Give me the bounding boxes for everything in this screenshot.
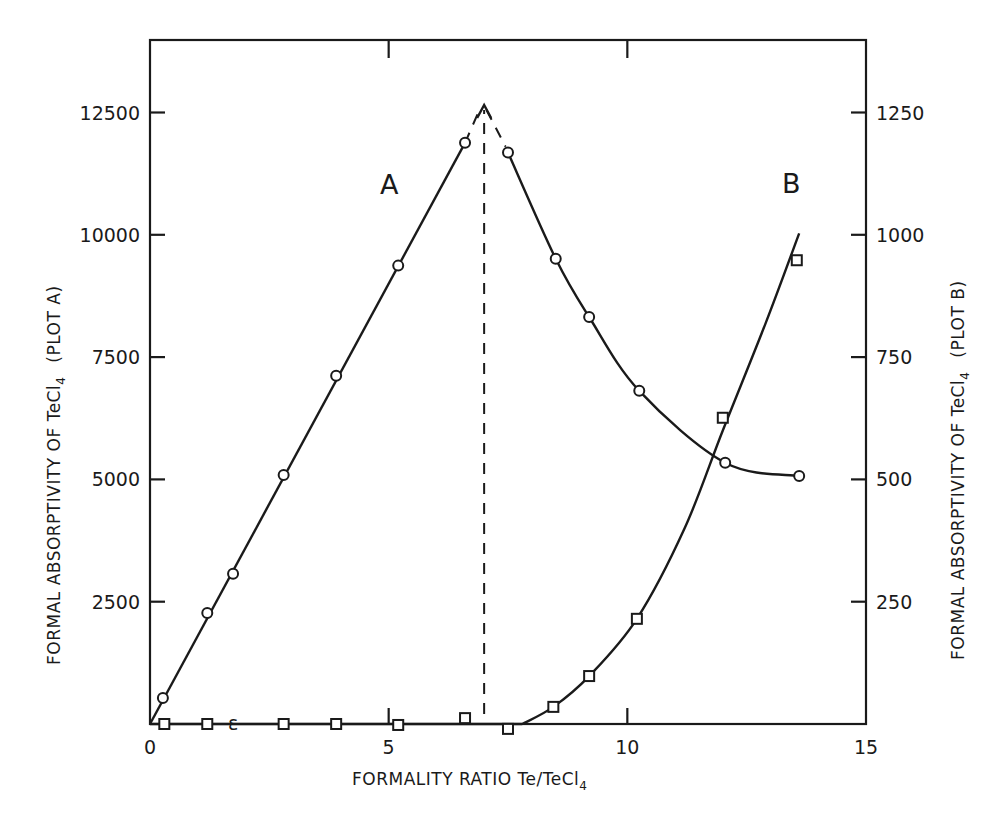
y-tick-label-right: 250 — [876, 591, 912, 613]
marker-a-circle — [228, 569, 238, 579]
marker-b-square — [279, 719, 289, 729]
marker-a-circle — [584, 312, 594, 322]
marker-a-circle — [503, 148, 513, 158]
marker-a-circle — [551, 254, 561, 264]
x-tick-label: 10 — [615, 736, 639, 758]
marker-a-circle — [460, 138, 470, 148]
y-axis-title-right: FORMAL ABSORPTIVITY OF TeCl4(PLOT B) — [948, 280, 972, 660]
x-tick-label: 0 — [144, 736, 156, 758]
marker-b-square — [393, 720, 403, 730]
x-axis-title: FORMALITY RATIO Te/TeCl4 — [352, 769, 587, 793]
marker-b-square — [584, 671, 594, 681]
y-tick-label-right: 500 — [876, 468, 912, 490]
axis-ticks — [150, 40, 866, 724]
y-tick-label-right: 750 — [876, 346, 912, 368]
y-tick-label-left: 12500 — [80, 102, 140, 124]
x-tick-label: 5 — [383, 736, 395, 758]
curve-a-rising — [150, 143, 465, 724]
marker-a-circle — [393, 261, 403, 271]
curve-b — [522, 233, 799, 724]
baseline-glyph: ε — [228, 712, 238, 734]
marker-b-square — [331, 719, 341, 729]
y-tick-label-left: 2500 — [92, 591, 140, 613]
curve-a-falling — [508, 153, 799, 476]
marker-b-square — [718, 413, 728, 423]
marker-a-circle — [634, 386, 644, 396]
y-tick-label-right: 1000 — [876, 224, 924, 246]
marker-a-circle — [158, 693, 168, 703]
y-tick-label-right: 1250 — [876, 102, 924, 124]
y-tick-label-left: 10000 — [80, 224, 140, 246]
y-tick-label-left: 7500 — [92, 346, 140, 368]
marker-a-circle — [331, 371, 341, 381]
marker-b-square — [792, 255, 802, 265]
curve-label-b: B — [782, 168, 801, 199]
marker-a-circle — [794, 471, 804, 481]
curve-label-a: A — [380, 169, 399, 200]
marker-b-square — [632, 614, 642, 624]
tick-labels: 0510152500500075001000012500250500750100… — [80, 102, 925, 759]
marker-a-circle — [202, 608, 212, 618]
plot-frame — [150, 40, 866, 724]
marker-b-square — [548, 702, 558, 712]
marker-a-circle — [720, 458, 730, 468]
y-axis-title-left: FORMAL ABSORPTIVITY OF TeCl4(PLOT A) — [44, 285, 68, 665]
curves — [150, 105, 799, 724]
chart: 0510152500500075001000012500250500750100… — [0, 0, 997, 829]
marker-b-square — [460, 713, 470, 723]
marker-b-square — [503, 724, 513, 734]
y-tick-label-left: 5000 — [92, 468, 140, 490]
marker-b-square — [159, 719, 169, 729]
data-markers: ε — [158, 138, 804, 734]
x-tick-label: 15 — [854, 736, 878, 758]
marker-b-square — [202, 719, 212, 729]
marker-a-circle — [279, 470, 289, 480]
